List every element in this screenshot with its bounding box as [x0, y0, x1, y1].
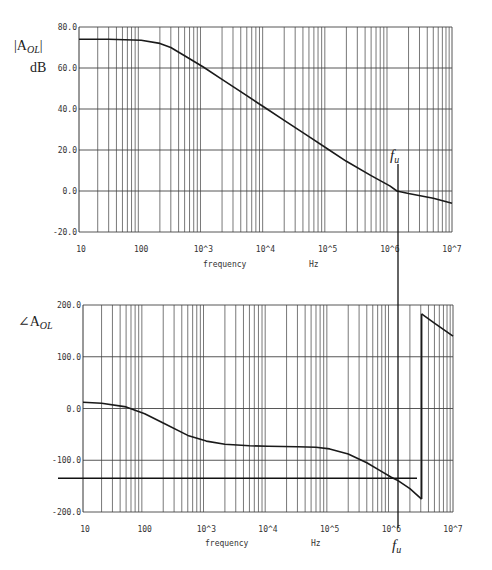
y-tick-label: 200.0 — [57, 301, 81, 310]
y-tick-label: 80.0 — [58, 23, 77, 32]
svg-text:∠AOL: ∠AOL — [18, 314, 53, 331]
phase-x-unit: Hz — [311, 539, 321, 548]
y-tick-label: -200.0 — [52, 508, 81, 517]
x-tick-label: 10 — [76, 245, 86, 254]
fu-label-bottom: fu — [392, 537, 401, 555]
phase-curve — [422, 314, 453, 336]
x-tick-label: 10^6 — [380, 245, 399, 254]
magnitude-y-label: |AOL| dB — [14, 38, 46, 75]
y-tick-label: 20.0 — [58, 146, 77, 155]
x-tick-label: 10^3 — [197, 525, 216, 534]
y-tick-label: 0.0 — [63, 187, 78, 196]
x-tick-label: 10^4 — [256, 245, 275, 254]
y-tick-label: -100.0 — [52, 456, 81, 465]
x-tick-label: 10^4 — [258, 525, 277, 534]
y-tick-label: 60.0 — [58, 64, 77, 73]
x-tick-label: 10^5 — [320, 525, 339, 534]
y-tick-label: 100.0 — [57, 353, 81, 362]
y-tick-label: 40.0 — [58, 105, 77, 114]
x-tick-label: 10^5 — [318, 245, 337, 254]
magnitude-plot: 80.060.040.020.00.0-20.01010010^310^410^… — [53, 23, 462, 254]
x-tick-label: 10^3 — [194, 245, 213, 254]
mag-x-label: frequency — [203, 260, 247, 269]
phase-x-label: frequency — [205, 539, 249, 548]
svg-text:|AOL|: |AOL| — [14, 38, 43, 55]
phase-plot: 200.0100.00.0-100.0-200.01010010^310^410… — [52, 301, 463, 534]
x-tick-label: 10 — [80, 525, 90, 534]
bode-plot-canvas: 80.060.040.020.00.0-20.01010010^310^410^… — [0, 0, 492, 570]
svg-text:dB: dB — [30, 60, 46, 75]
x-tick-label: 100 — [134, 245, 149, 254]
phase-y-label: ∠AOL — [18, 314, 53, 331]
y-tick-label: 0.0 — [67, 405, 82, 414]
y-tick-label: -20.0 — [53, 228, 77, 237]
x-tick-label: 100 — [137, 525, 152, 534]
x-tick-label: 10^7 — [442, 245, 461, 254]
mag-x-unit: Hz — [309, 260, 319, 269]
phase-curve — [83, 402, 422, 499]
x-tick-label: 10^7 — [443, 525, 462, 534]
svg-text:fu: fu — [392, 537, 401, 555]
